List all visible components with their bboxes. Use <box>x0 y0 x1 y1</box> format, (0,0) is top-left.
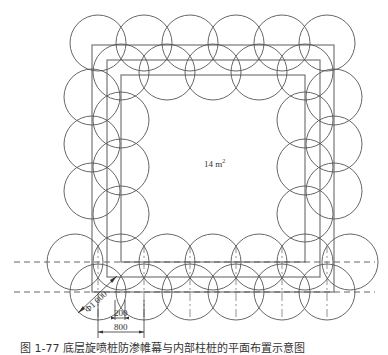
diameter-dimension: Φ1 000 <box>78 276 117 314</box>
pile-circle <box>299 15 355 71</box>
overlap-dimension-label: 200 <box>114 308 128 318</box>
pile-circle <box>70 15 126 71</box>
pile-circle <box>185 44 241 100</box>
pile-circle <box>208 15 264 71</box>
pile-circle <box>231 44 287 100</box>
pile-circle <box>162 15 218 71</box>
pile-circle <box>116 15 172 71</box>
spacing-dimension-label: 800 <box>114 322 128 332</box>
area-label: 14 m2 <box>204 158 225 169</box>
pile-circle <box>139 44 195 100</box>
figure-caption: 图 1-77 底层旋喷桩防渗帷幕与内部柱桩的平面布置示意图 <box>20 339 305 355</box>
pile-circle <box>254 15 310 71</box>
